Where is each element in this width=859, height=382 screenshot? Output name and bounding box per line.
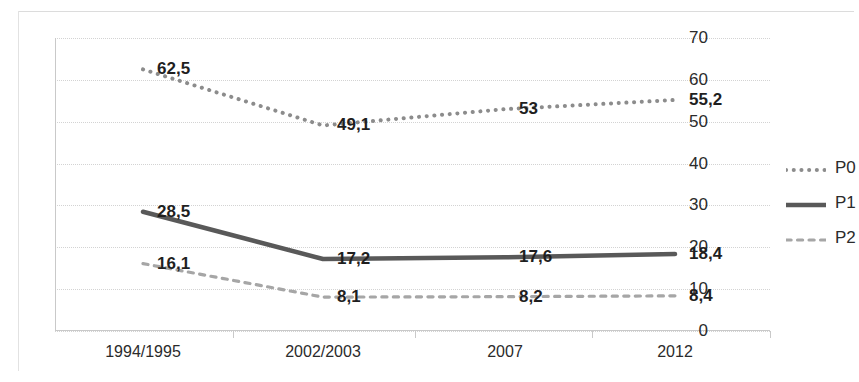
legend-swatch-icon (786, 232, 826, 244)
x-axis-tick-mark (770, 331, 771, 338)
gridline (55, 331, 770, 332)
data-label-p0-2007: 53 (519, 99, 538, 119)
data-label-p2-1994-1995: 16,1 (157, 254, 190, 274)
plot-area: 010203040506070 1994/19952002/2003200720… (55, 38, 770, 331)
x-axis-tick-mark (415, 331, 416, 338)
legend-label: P1 (835, 193, 856, 213)
legend-item-p0[interactable]: P0 (786, 150, 856, 185)
legend-label: P2 (835, 228, 856, 248)
legend-item-p2[interactable]: P2 (786, 220, 856, 255)
series-line-p2 (143, 264, 675, 297)
data-label-p1-2012: 18,4 (689, 244, 722, 264)
series-line-p1 (143, 212, 675, 259)
data-label-p2-2007: 8,2 (519, 287, 543, 307)
legend-swatch-icon (786, 197, 826, 209)
data-label-p0-1994-1995: 62,5 (157, 59, 190, 79)
data-label-p1-2002-2003: 17,2 (337, 249, 370, 269)
data-label-p2-2012: 8,4 (689, 286, 713, 306)
x-axis-tick-label: 1994/1995 (105, 343, 181, 361)
chart-container: 010203040506070 1994/19952002/2003200720… (0, 0, 859, 382)
x-axis-tick-mark (592, 331, 593, 338)
x-axis-tick-label: 2002/2003 (285, 343, 361, 361)
data-label-p1-2007: 17,6 (519, 247, 552, 267)
data-label-p1-1994-1995: 28,5 (157, 202, 190, 222)
x-axis-tick-mark (233, 331, 234, 338)
figure-frame-left (18, 11, 19, 371)
series-line-p0 (143, 69, 675, 125)
data-label-p0-2012: 55,2 (689, 90, 722, 110)
figure-frame-top (18, 11, 854, 12)
data-label-p0-2002-2003: 49,1 (337, 115, 370, 135)
legend-item-p1[interactable]: P1 (786, 185, 856, 220)
chart-legend: P0P1P2 (786, 150, 856, 255)
legend-label: P0 (835, 158, 856, 178)
legend-swatch-icon (786, 162, 826, 174)
data-label-p2-2002-2003: 8,1 (337, 287, 361, 307)
x-axis-tick-label: 2012 (657, 343, 693, 361)
x-axis-tick-label: 2007 (487, 343, 523, 361)
series-lines (55, 38, 770, 331)
